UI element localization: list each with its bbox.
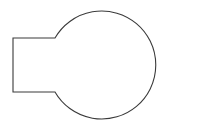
figure-canvas (0, 0, 202, 134)
shape-diagram-svg (0, 0, 202, 134)
